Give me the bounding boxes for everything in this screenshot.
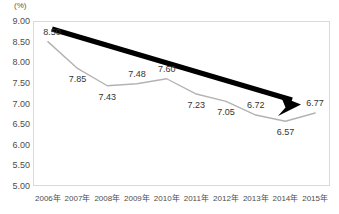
x-tick-label: 2013年 (243, 192, 269, 203)
data-series-line (48, 42, 315, 122)
x-tick-label: 2012年 (213, 192, 239, 203)
point-label: 6.77 (306, 98, 324, 108)
x-tick-label: 2006年 (35, 192, 61, 203)
point-label: 7.85 (69, 74, 87, 84)
point-label: 7.43 (99, 92, 117, 102)
x-tick-label: 2007年 (65, 192, 91, 203)
point-label: 7.60 (158, 64, 176, 74)
x-tick-label: 2010年 (154, 192, 180, 203)
x-tick-label: 2014年 (272, 192, 298, 203)
point-label: 7.05 (217, 107, 235, 117)
line-chart: (%) 9.00 8.50 8.00 7.50 7.00 6.50 6.00 5… (0, 0, 339, 214)
x-tick-label: 2011年 (184, 192, 209, 203)
x-tick-label: 2008年 (94, 192, 120, 203)
point-label: 8.50 (43, 27, 61, 37)
point-label: 6.57 (277, 127, 295, 137)
point-label: 6.72 (247, 100, 265, 110)
point-label: 7.48 (128, 69, 146, 79)
x-tick-label: 2015年 (302, 192, 328, 203)
point-label: 7.23 (188, 100, 206, 110)
x-tick-label: 2009年 (124, 192, 150, 203)
